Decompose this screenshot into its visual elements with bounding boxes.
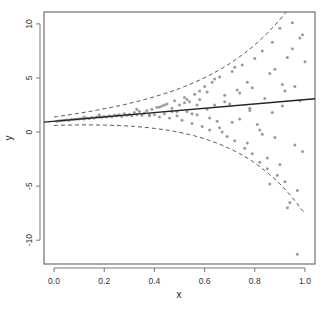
data-point	[296, 253, 299, 256]
scatter-chart: 0.00.20.40.60.81.0 -10-50510 x y	[0, 0, 328, 315]
data-point	[153, 113, 156, 116]
data-point	[251, 152, 254, 155]
data-point	[266, 167, 269, 170]
data-point	[278, 27, 281, 30]
band-upper-curve	[54, 0, 305, 117]
data-point	[241, 64, 244, 67]
data-point	[291, 47, 294, 50]
points-layer	[55, 21, 307, 256]
data-point	[243, 147, 246, 150]
data-point	[198, 90, 201, 93]
data-point	[223, 94, 226, 97]
data-point	[283, 180, 286, 183]
data-point	[163, 104, 166, 107]
data-point	[273, 68, 276, 71]
data-point	[271, 111, 274, 114]
data-point	[261, 133, 264, 136]
y-tick-label: -10	[24, 234, 34, 247]
data-point	[201, 125, 204, 128]
data-point	[293, 85, 296, 88]
data-point	[271, 41, 274, 44]
data-point	[246, 81, 249, 84]
data-point	[218, 75, 221, 78]
data-point	[293, 144, 296, 147]
data-point	[238, 92, 241, 95]
data-point	[238, 118, 241, 121]
data-point	[145, 109, 148, 112]
data-point	[135, 108, 138, 111]
data-point	[208, 128, 211, 131]
data-point	[233, 66, 236, 69]
data-point	[138, 110, 141, 113]
data-point	[233, 139, 236, 142]
data-point	[281, 105, 284, 108]
data-point	[191, 122, 194, 125]
data-point	[206, 91, 209, 94]
data-point	[236, 88, 239, 91]
data-point	[296, 189, 299, 192]
data-point	[216, 120, 219, 123]
data-point	[261, 49, 264, 52]
data-point	[263, 97, 266, 100]
data-point	[268, 183, 271, 186]
data-point	[158, 115, 161, 118]
fit-line-layer	[44, 99, 315, 122]
data-point	[301, 33, 304, 36]
data-point	[176, 114, 179, 117]
data-point	[304, 60, 307, 63]
data-point	[258, 161, 261, 164]
data-point	[286, 206, 289, 209]
y-tick-label: -5	[24, 182, 34, 190]
data-point	[223, 100, 226, 103]
x-tick-label: 0.6	[199, 276, 211, 286]
data-point	[281, 83, 284, 86]
data-point	[273, 136, 276, 139]
data-point	[186, 98, 189, 101]
data-point	[301, 150, 304, 153]
y-tick-label: 0	[24, 129, 34, 134]
data-point	[268, 72, 271, 75]
data-point	[173, 99, 176, 102]
data-point	[196, 113, 199, 116]
x-tick-label: 1.0	[299, 276, 311, 286]
data-point	[253, 57, 256, 60]
data-point	[256, 123, 259, 126]
band-layer	[54, 0, 305, 214]
data-point	[291, 21, 294, 24]
y-axis-label: y	[3, 136, 14, 141]
data-point	[188, 100, 191, 103]
data-point	[213, 78, 216, 81]
data-point	[288, 201, 291, 204]
x-tick-label: 0.2	[98, 276, 110, 286]
data-point	[251, 86, 254, 89]
data-point	[286, 56, 289, 59]
data-point	[196, 104, 199, 107]
data-point	[181, 119, 184, 122]
y-axis: -10-50510	[24, 19, 40, 246]
data-point	[283, 90, 286, 93]
regression-line	[44, 99, 315, 122]
data-point	[191, 112, 194, 115]
data-point	[211, 81, 214, 84]
data-point	[266, 157, 269, 160]
x-axis-label: x	[177, 289, 182, 300]
x-tick-label: 0.4	[148, 276, 160, 286]
data-point	[183, 101, 186, 104]
data-point	[158, 106, 161, 109]
data-point	[231, 121, 234, 124]
data-point	[228, 102, 231, 105]
data-point	[168, 117, 171, 120]
data-point	[246, 141, 249, 144]
data-point	[98, 113, 101, 116]
data-point	[298, 37, 301, 40]
data-point	[171, 107, 174, 110]
data-point	[163, 112, 166, 115]
data-point	[213, 104, 216, 107]
x-tick-label: 0.0	[48, 276, 60, 286]
data-point	[231, 70, 234, 73]
data-point	[248, 109, 251, 112]
data-point	[183, 96, 186, 99]
data-point	[166, 102, 169, 105]
data-point	[203, 85, 206, 88]
data-point	[258, 128, 261, 131]
